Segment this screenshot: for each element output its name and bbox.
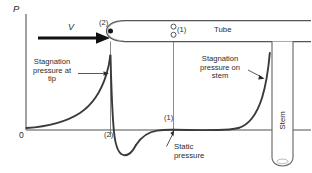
stem-label: Stem — [279, 106, 288, 134]
stagnation-point-marker — [108, 29, 113, 34]
leader-arrowhead-stem-stagnation — [258, 75, 264, 79]
stem-bottom-detail — [277, 159, 288, 164]
static-port-hole-upper — [171, 24, 176, 29]
point-label-static-1: (1) — [177, 26, 186, 34]
curve-label-static-1: (1) — [164, 114, 173, 122]
stem-outline — [272, 42, 293, 167]
callout-static-pressure: Static pressure — [174, 142, 232, 161]
pitot-tube-body — [107, 21, 312, 42]
axis-tick-label-2: (2) — [104, 131, 113, 139]
callout-stem-stagnation: Stagnation pressure on stem — [192, 55, 248, 81]
stem-group — [272, 42, 293, 167]
callout-static-pressure-line1: Static — [174, 142, 232, 151]
static-port-hole-lower — [171, 32, 176, 37]
callout-tip-stagnation: Stagnation pressure at tip — [26, 58, 78, 84]
callout-tip-stagnation-line3: tip — [26, 75, 78, 84]
point-label-stagnation-2: (2) — [99, 19, 108, 27]
pressure-curve-static-plateau — [174, 128, 239, 130]
guide-lines-group — [111, 42, 174, 138]
leader-line-static-pressure — [167, 134, 174, 147]
pressure-curve-drop-to-trough — [111, 56, 137, 156]
tube-label: Tube — [214, 26, 231, 35]
flow-arrow-group — [38, 32, 110, 44]
origin-label: 0 — [19, 131, 24, 141]
pitot-tube-pressure-diagram: P 0 V (2) (2) (1) (1) Tube Stem Stagnati… — [0, 0, 311, 173]
callout-stem-stagnation-line3: stem — [192, 72, 248, 81]
y-axis-label: P — [13, 4, 19, 15]
diagram-canvas — [0, 0, 311, 173]
pressure-curve-recovery-to-static — [136, 130, 174, 145]
tube-outline — [107, 21, 312, 42]
velocity-label: V — [68, 22, 74, 32]
callout-static-pressure-line2: pressure — [174, 151, 232, 160]
